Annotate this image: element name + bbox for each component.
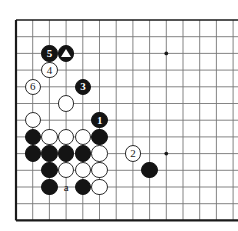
white-stone xyxy=(58,95,74,111)
stone-number-label: 4 xyxy=(47,65,52,76)
stone-number-label: 3 xyxy=(80,81,85,92)
black-stone xyxy=(25,129,41,145)
black-stone xyxy=(58,145,74,161)
black-stone xyxy=(41,162,57,178)
move-stone-1: 1 xyxy=(91,112,107,128)
black-stone xyxy=(75,179,91,195)
black-stone xyxy=(41,179,57,195)
go-board-diagram: 546312a xyxy=(0,0,238,231)
triangle-marker-icon xyxy=(61,49,71,57)
white-stone xyxy=(91,145,107,161)
white-stone xyxy=(41,129,57,145)
point-label-a: a xyxy=(58,179,74,195)
black-stone xyxy=(75,145,91,161)
stone-number-label: 6 xyxy=(30,81,35,92)
move-stone-2: 2 xyxy=(125,145,141,161)
black-stone xyxy=(41,145,57,161)
white-stone xyxy=(91,179,107,195)
black-stone xyxy=(91,129,107,145)
move-stone-5: 5 xyxy=(41,45,57,61)
white-stone xyxy=(91,162,107,178)
black-stone xyxy=(25,145,41,161)
move-stone-4: 4 xyxy=(41,62,57,78)
stone-number-label: 5 xyxy=(47,48,52,59)
move-stone-3: 3 xyxy=(75,79,91,95)
move-stone-6: 6 xyxy=(25,79,41,95)
white-stone xyxy=(75,129,91,145)
stone-number-label: 1 xyxy=(97,115,102,126)
marked-stone-triangle xyxy=(58,45,74,61)
stone-number-label: 2 xyxy=(130,148,135,159)
